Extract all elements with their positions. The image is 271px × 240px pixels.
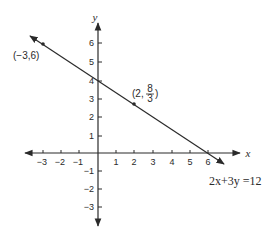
x-tick-labels: −3 −2 −1 1 2 3 4 5 6	[37, 157, 211, 167]
y-tick-label: 5	[89, 57, 94, 67]
point-label-neg3-6: (−3,6)	[13, 50, 39, 61]
equation-label: 2x+3y =12	[209, 174, 262, 188]
point-neg3-6	[41, 42, 45, 46]
x-tick-label: 5	[187, 157, 192, 167]
svg-text:3: 3	[147, 93, 153, 104]
x-tick-label: 1	[113, 157, 118, 167]
svg-text:(2,: (2,	[132, 88, 144, 99]
x-tick-label: −2	[55, 157, 65, 167]
y-tick-label: 2	[89, 112, 94, 122]
point-2-8-3	[132, 102, 136, 106]
line-2x-3y-12	[30, 36, 224, 164]
y-tick-labels: 6 5 4 3 2 1 −1 −2 −3	[84, 38, 94, 212]
svg-text:): )	[155, 88, 158, 99]
y-tick-label: −2	[84, 184, 94, 194]
y-tick-label: 3	[89, 94, 94, 104]
point-label-2-8-3: (2, 8 3 )	[132, 83, 158, 104]
x-axis-label: x	[245, 147, 251, 159]
x-tick-label: 4	[169, 157, 174, 167]
y-tick-label: −1	[84, 166, 94, 176]
x-tick-label: 2	[131, 157, 136, 167]
x-tick-label: 3	[150, 157, 155, 167]
y-tick-label: 1	[89, 131, 94, 141]
x-tick-label: −1	[73, 157, 83, 167]
x-tick-label: −3	[37, 157, 47, 167]
x-tick-label: 6	[205, 157, 210, 167]
y-axis-label: y	[92, 11, 98, 23]
line-graph: −3 −2 −1 1 2 3 4 5 6 6 5 4 3 2 1 −1 −2 −…	[0, 0, 271, 240]
y-tick-label: 6	[89, 38, 94, 48]
y-tick-label: −3	[84, 202, 94, 212]
